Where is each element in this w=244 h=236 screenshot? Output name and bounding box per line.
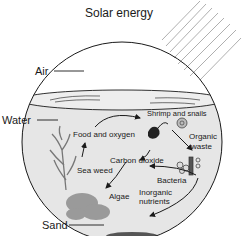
title-solar-energy: Solar energy: [85, 6, 153, 20]
label-food-oxygen: Food and oxygen: [73, 130, 135, 139]
label-carbon-dioxide: Carbon dioxide: [110, 156, 164, 165]
label-organic: Organic: [189, 132, 217, 141]
label-air: Air: [35, 65, 49, 77]
label-sea-weed: Sea weed: [77, 166, 113, 175]
ecosystem-diagram: Solar energy Air Water Sand Shrimp and s…: [0, 0, 244, 236]
label-water: Water: [2, 114, 31, 126]
snail-icon: [177, 118, 187, 128]
label-bacteria: Bacteria: [157, 176, 187, 185]
label-inorganic: Inorganic: [139, 188, 172, 197]
label-shrimp-snails: Shrimp and snails: [147, 109, 207, 118]
label-nutrients: nutrients: [139, 197, 170, 206]
label-waste: waste: [190, 142, 212, 151]
label-sand: Sand: [42, 219, 68, 231]
solar-rays-icon: [162, 1, 241, 80]
label-algae: Algae: [109, 192, 130, 201]
